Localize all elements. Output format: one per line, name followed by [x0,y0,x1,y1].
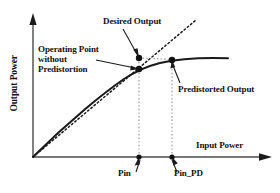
pin-pd-axis-point-marker [169,154,174,159]
desired-level-horizontal-dotted-line [139,58,173,60]
operating-point-marker [136,66,142,72]
x-axis-label: Input Power [196,140,243,150]
y-axis-label: Output Power [9,47,20,119]
y-axis [29,13,36,157]
figure-canvas: Desired Output Operating Point without P… [0,0,280,193]
x-axis-arrow-icon [259,153,272,161]
diagram-svg [0,0,280,193]
operating-point-label: Operating Point without Predistortion [38,44,104,74]
desired-output-label: Desired Output [103,16,161,26]
predistorted-output-label: Predistorted Output [178,84,254,94]
pin-axis-point-marker [136,154,141,159]
pin-tick-label: Pin [118,168,131,178]
y-axis-arrow-icon [29,13,36,25]
predistorted-output-point-marker [169,57,175,63]
x-axis [33,153,272,161]
desired-output-point-marker [136,55,142,61]
pin-pd-tick-label: Pin_PD [174,168,203,178]
